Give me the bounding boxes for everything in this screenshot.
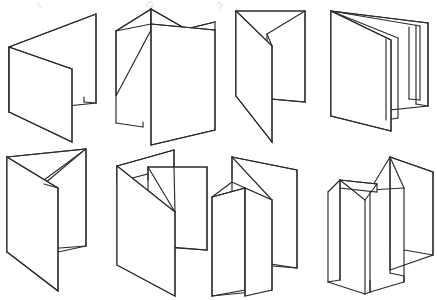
diagram-canvas xyxy=(0,0,437,300)
fold-types-diagram: Paper Fold Types Diagram xyxy=(0,0,437,300)
